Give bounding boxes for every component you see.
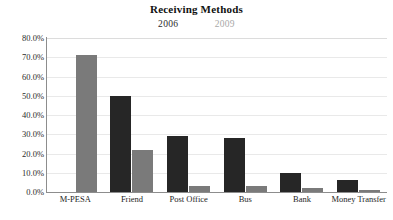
bar-2006 [110,96,131,192]
bar-2006 [224,138,245,192]
x-tick-label: M-PESA [47,195,104,204]
y-tick-label: 20.0% [0,150,44,159]
bar-group [160,38,217,192]
bar-2006 [167,136,188,192]
bar-2009 [359,190,380,192]
bar-2009 [302,188,323,192]
y-tick-label: 40.0% [0,111,44,120]
y-tick-label: 80.0% [0,34,44,43]
bar-2006 [337,180,358,192]
bar-2009 [132,150,153,192]
bar-group [217,38,274,192]
y-tick-label: 70.0% [0,53,44,62]
x-tick-label: Post Office [160,195,217,204]
bar-group [104,38,161,192]
x-tick-label: Friend [104,195,161,204]
x-axis-line [46,192,387,193]
legend-entry-2006: 2006 [158,19,178,29]
y-tick-label: 50.0% [0,92,44,101]
x-tick-label: Money Transfer [330,195,387,204]
y-tick-label: 60.0% [0,73,44,82]
chart-legend: 2006 2009 [0,19,393,29]
bar-2009 [246,186,267,192]
y-tick-label: 0.0% [0,188,44,197]
chart-title: Receiving Methods [0,3,393,15]
bar-group [274,38,331,192]
x-tick-label: Bus [217,195,274,204]
bar-group [330,38,387,192]
receiving-methods-chart: Receiving Methods 2006 2009 80.0%70.0%60… [0,0,393,220]
plot-area [47,38,387,192]
bar-2009 [76,55,97,192]
bar-2006 [280,173,301,192]
bar-group [47,38,104,192]
bar-2009 [189,186,210,192]
y-tick-label: 10.0% [0,169,44,178]
x-tick-label: Bank [274,195,331,204]
legend-entry-2009: 2009 [215,19,235,29]
y-tick-label: 30.0% [0,130,44,139]
